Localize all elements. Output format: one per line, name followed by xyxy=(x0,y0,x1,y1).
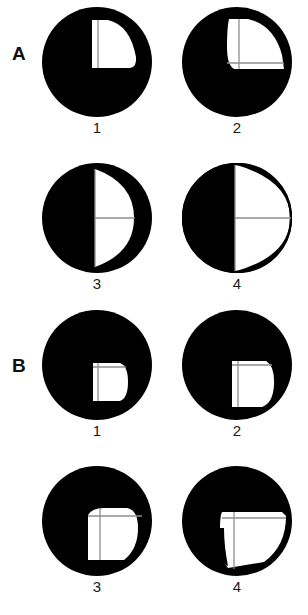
panel-a2 xyxy=(182,7,292,117)
panel-a4-graphic xyxy=(182,163,292,273)
panel-b4 xyxy=(182,466,292,576)
panel-b1 xyxy=(42,310,152,420)
figure-panel-grid: A 1 2 3 xyxy=(0,0,308,615)
panel-b3-graphic xyxy=(42,466,152,576)
panel-a2-graphic xyxy=(182,7,292,117)
panel-b2 xyxy=(182,310,292,420)
group-label-a: A xyxy=(12,44,26,63)
group-label-b: B xyxy=(12,356,26,375)
panel-number-a2: 2 xyxy=(222,120,252,135)
panel-number-a4: 4 xyxy=(222,276,252,291)
panel-number-b4: 4 xyxy=(222,579,252,594)
panel-number-b2: 2 xyxy=(222,423,252,438)
panel-b2-graphic xyxy=(182,310,292,420)
panel-number-a1: 1 xyxy=(82,120,112,135)
panel-number-a3: 3 xyxy=(82,276,112,291)
panel-b3 xyxy=(42,466,152,576)
panel-number-b3: 3 xyxy=(82,579,112,594)
panel-a4 xyxy=(182,163,292,273)
panel-b4-graphic xyxy=(182,466,292,576)
panel-a1 xyxy=(42,7,152,117)
panel-a3 xyxy=(42,163,152,273)
panel-number-b1: 1 xyxy=(82,423,112,438)
panel-a1-graphic xyxy=(42,7,152,117)
panel-b1-graphic xyxy=(42,310,152,420)
panel-a3-graphic xyxy=(42,163,152,273)
